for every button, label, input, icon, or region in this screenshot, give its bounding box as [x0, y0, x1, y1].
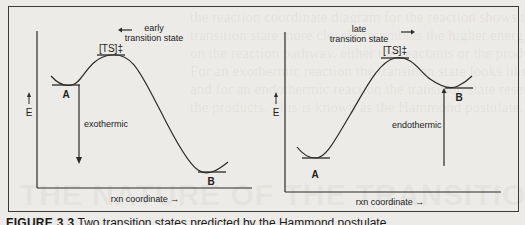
left-y-axis-label: E	[26, 107, 33, 118]
caption-text: Two transition states predicted by the H…	[77, 216, 386, 225]
left-title-line1: early	[144, 23, 164, 33]
right-product-B: B	[455, 92, 462, 103]
left-product-B: B	[207, 176, 214, 187]
left-reactant-A: A	[62, 89, 69, 100]
left-energy-curve	[51, 55, 228, 173]
right-diagram: late transition state [TS]‡ A B E endoth…	[273, 24, 501, 207]
caption-label: FIGURE 3.3	[6, 216, 74, 225]
left-title-line2: transition state	[125, 33, 184, 43]
right-title-line1: late	[352, 24, 367, 34]
right-ts-label: [TS]‡	[383, 45, 407, 56]
left-ts-label: [TS]‡	[99, 43, 123, 54]
right-delta-label: endothermic	[392, 120, 442, 130]
right-reactant-A: A	[311, 169, 318, 180]
energy-diagrams: early transition state [TS]‡ A B E exoth…	[0, 0, 525, 225]
left-x-axis-label: rxn coordinate →	[111, 194, 180, 204]
right-title-line2: transition state	[330, 34, 389, 44]
right-x-axis-label: rxn coordinate →	[356, 197, 425, 207]
figure-caption: FIGURE 3.3 Two transition states predict…	[6, 216, 386, 225]
left-delta-label: exothermic	[84, 119, 129, 129]
left-diagram: early transition state [TS]‡ A B E exoth…	[26, 23, 252, 204]
right-energy-curve	[297, 58, 472, 158]
right-y-axis-label: E	[273, 107, 280, 118]
